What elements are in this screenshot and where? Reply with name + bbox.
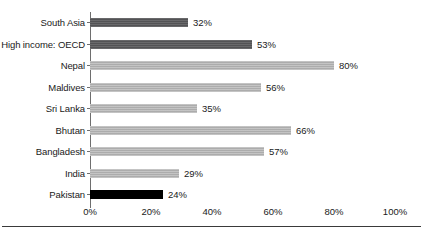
bar[interactable] xyxy=(90,83,261,92)
x-tick-label: 20% xyxy=(128,205,174,219)
category-label: Nepal xyxy=(0,55,85,76)
bar-row[interactable]: Nepal 80% xyxy=(0,55,423,76)
axis-tick xyxy=(87,173,90,174)
category-label: South Asia xyxy=(0,12,85,33)
bar-value-label: 56% xyxy=(266,77,285,98)
bar[interactable] xyxy=(90,126,291,135)
category-label: India xyxy=(0,163,85,184)
bar-value-label: 32% xyxy=(193,12,212,33)
category-label: Bangladesh xyxy=(0,141,85,162)
x-tick-label: 0% xyxy=(67,205,113,219)
category-label: Pakistan xyxy=(0,184,85,205)
axis-tick xyxy=(87,65,90,66)
bar-row[interactable]: India 29% xyxy=(0,163,423,184)
bar-value-label: 66% xyxy=(296,120,315,141)
axis-tick xyxy=(87,151,90,152)
plot-area: South Asia 32% High income: OECD 53% Nep… xyxy=(0,0,423,205)
bar-value-label: 24% xyxy=(168,184,187,205)
bar[interactable] xyxy=(90,40,252,49)
bar-row[interactable]: South Asia 32% xyxy=(0,12,423,33)
axis-tick xyxy=(87,44,90,45)
x-axis: 0% 20% 40% 60% 80% 100% xyxy=(0,205,423,221)
bar-row[interactable]: Bangladesh 57% xyxy=(0,141,423,162)
axis-tick xyxy=(87,87,90,88)
bar-row[interactable]: Bhutan 66% xyxy=(0,120,423,141)
bar[interactable] xyxy=(90,147,264,156)
bar-value-label: 53% xyxy=(257,34,276,55)
axis-tick xyxy=(87,108,90,109)
bar-value-label: 57% xyxy=(269,141,288,162)
bar[interactable] xyxy=(90,190,163,199)
bar-row[interactable]: Maldives 56% xyxy=(0,77,423,98)
bar[interactable] xyxy=(90,104,197,113)
category-label: Maldives xyxy=(0,77,85,98)
bar[interactable] xyxy=(90,18,188,27)
bar[interactable] xyxy=(90,61,334,70)
bar-value-label: 35% xyxy=(202,98,221,119)
x-tick-label: 40% xyxy=(189,205,235,219)
bar-value-label: 80% xyxy=(339,55,358,76)
bar-value-label: 29% xyxy=(184,163,203,184)
category-label: Bhutan xyxy=(0,120,85,141)
bar[interactable] xyxy=(90,169,179,178)
bar-chart-figure: South Asia 32% High income: OECD 53% Nep… xyxy=(0,0,423,239)
bar-row[interactable]: Pakistan 24% xyxy=(0,184,423,205)
x-tick-label: 100% xyxy=(372,205,418,219)
axis-tick xyxy=(87,130,90,131)
category-label: High income: OECD xyxy=(0,34,85,55)
x-tick-label: 60% xyxy=(250,205,296,219)
bar-row[interactable]: High income: OECD 53% xyxy=(0,34,423,55)
bar-row[interactable]: Sri Lanka 35% xyxy=(0,98,423,119)
axis-tick xyxy=(87,22,90,23)
x-tick-label: 80% xyxy=(311,205,357,219)
bottom-rule xyxy=(2,226,421,227)
category-label: Sri Lanka xyxy=(0,98,85,119)
axis-tick xyxy=(87,194,90,195)
